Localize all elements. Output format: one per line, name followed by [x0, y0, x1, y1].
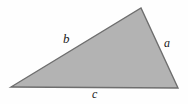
geometry-figure: b a c — [0, 0, 188, 104]
side-label-c: c — [92, 88, 97, 100]
side-label-b: b — [63, 32, 70, 45]
side-label-a: a — [164, 37, 170, 49]
triangle-shape — [11, 8, 178, 88]
